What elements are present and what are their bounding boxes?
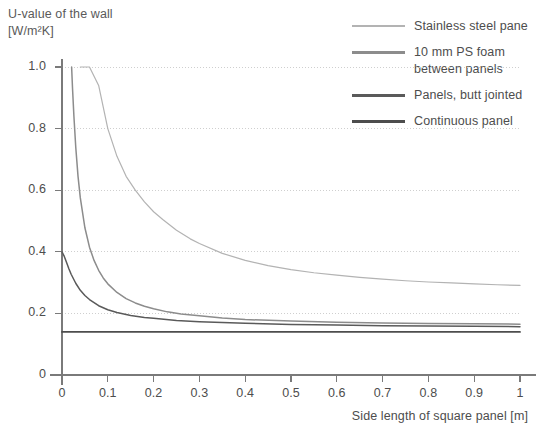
x-tick-label: 0.9 <box>457 386 491 400</box>
x-tick-label: 0.7 <box>366 386 400 400</box>
x-tick-label: 0.2 <box>137 386 171 400</box>
plot-svg <box>0 0 536 434</box>
plot-area: 00.20.40.60.81.0 00.10.20.30.40.50.60.70… <box>0 0 536 434</box>
y-tick-label: 1.0 <box>12 59 46 73</box>
y-tick-label: 0.6 <box>12 182 46 196</box>
x-tick-label: 0.6 <box>320 386 354 400</box>
x-tick-label: 0.3 <box>182 386 216 400</box>
chart-root: U-value of the wall [W/m²K] Stainless st… <box>0 0 536 434</box>
x-tick-label: 0.1 <box>91 386 125 400</box>
x-tick-label: 0.8 <box>411 386 445 400</box>
x-tick-label: 0.4 <box>228 386 262 400</box>
x-tick-label: 1 <box>503 386 536 400</box>
x-tick-label: 0.5 <box>274 386 308 400</box>
y-tick-label: 0.8 <box>12 121 46 135</box>
x-tick-label: 0 <box>45 386 79 400</box>
y-tick-label: 0.2 <box>12 305 46 319</box>
x-axis-title: Side length of square panel [m] <box>352 409 528 423</box>
y-tick-label: 0 <box>12 367 46 381</box>
y-tick-label: 0.4 <box>12 244 46 258</box>
